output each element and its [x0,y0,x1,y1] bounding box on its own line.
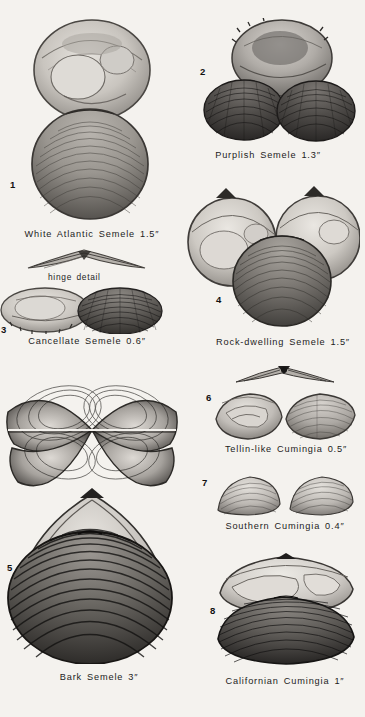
figure-caption-4: Rock-dwelling Semele 1.5″ [208,337,358,347]
hinge-detail-icon [26,248,148,272]
figure-caption-1: White Atlantic Semele 1.5″ [17,229,167,239]
figure-marker-7: 7 [202,477,207,488]
figure-tellin-like-cumingia-hinge [234,364,336,386]
shell-identification-plate: 1 White Atlantic Semele 1.5″ hinge detai… [0,0,365,717]
figure-white-atlantic-semele [18,14,166,222]
figure-hinge-detail [26,248,148,272]
bivalve-shell-trio-icon [196,18,356,144]
figure-marker-1: 1 [10,179,15,190]
figure-cancellate-semele [0,286,165,334]
figure-californian-cumingia [212,553,360,665]
figure-rock-dwelling-semele [182,186,360,328]
figure-southern-cumingia [214,474,356,516]
bivalve-shell-pair-small-icon [0,286,165,334]
figure-tellin-like-cumingia [212,389,358,441]
figure-marker-2: 2 [200,66,205,77]
cumingia-large-pair-icon [212,553,360,665]
figure-marker-4: 4 [216,294,221,305]
figure-bark-semele [4,372,180,664]
hinge-spray-icon [234,364,336,386]
figure-caption-2: Purplish Semele 1.3″ [203,150,333,160]
figure-caption-7: Southern Cumingia 0.4″ [218,521,352,531]
figure-marker-3: 3 [1,324,6,335]
hinge-detail-label: hinge detail [48,272,101,282]
figure-caption-8: Californian Cumingia 1″ [221,676,349,686]
figure-marker-5: 5 [7,562,12,573]
bivalve-shell-large-icon [4,372,180,664]
cumingia-pair-small-icon [214,474,356,516]
cumingia-pair-icon [212,389,358,441]
figure-purplish-semele [196,18,356,144]
figure-marker-6: 6 [206,392,211,403]
figure-marker-8: 8 [210,605,215,616]
figure-caption-6: Tellin-like Cumingia 0.5″ [216,444,356,454]
figure-caption-5: Bark Semele 3″ [44,672,154,682]
bivalve-shell-cluster-icon [182,186,360,328]
bivalve-shell-pair-icon [18,14,166,222]
figure-caption-3: Cancellate Semele 0.6″ [14,336,160,346]
